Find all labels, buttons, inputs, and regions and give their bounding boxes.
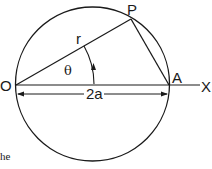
dimension-arrow-left-icon xyxy=(17,92,24,97)
label-diameter: 2a xyxy=(86,85,103,102)
chord-pa xyxy=(131,19,169,85)
label-angle: θ xyxy=(64,63,72,78)
label-point-a: A xyxy=(172,69,182,86)
label-point-p: P xyxy=(127,1,137,18)
label-radius: r xyxy=(76,30,81,47)
radius-line-op xyxy=(16,19,131,85)
polar-circle-diagram: O P A X r θ 2a he xyxy=(0,0,212,169)
caption-fragment: he xyxy=(0,150,11,162)
label-origin: O xyxy=(0,77,12,94)
label-axis-x: X xyxy=(201,78,211,95)
angle-arc xyxy=(84,46,94,84)
circle xyxy=(16,7,170,161)
dimension-arrow-right-icon xyxy=(161,92,168,97)
